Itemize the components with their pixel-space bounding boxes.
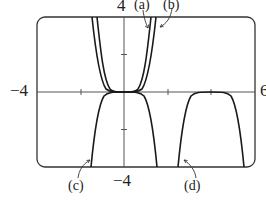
curve-label-a: (a) xyxy=(134,0,150,13)
y-min-label: −4 xyxy=(113,171,131,191)
x-min-label: −4 xyxy=(10,81,28,101)
curve-label-d: (d) xyxy=(184,178,200,194)
x-max-label: 6 xyxy=(260,81,266,101)
curve-d xyxy=(178,92,244,167)
curve-label-c: (c) xyxy=(68,178,84,194)
y-max-label: 4 xyxy=(117,0,126,16)
graph xyxy=(0,0,266,211)
curve-label-b: (b) xyxy=(163,0,179,13)
